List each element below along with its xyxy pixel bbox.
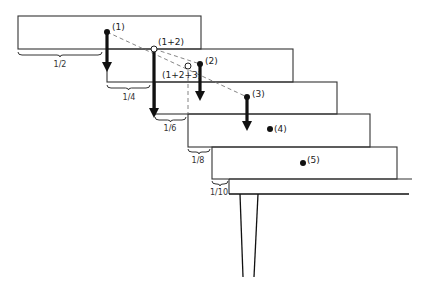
brace — [212, 181, 228, 186]
filled-dot-icon — [267, 126, 273, 132]
filled-dot-icon — [300, 160, 306, 166]
open-circle-icon — [185, 63, 191, 69]
filled-dot-icon — [244, 94, 250, 100]
filled-dot-icon — [197, 61, 203, 67]
overhang-fraction-label: 1/6 — [164, 124, 177, 133]
point-label: (3) — [252, 89, 265, 99]
down-arrow-icon — [102, 62, 112, 72]
down-arrow-icon — [195, 91, 205, 101]
point-label: (1) — [112, 22, 125, 32]
brace — [107, 85, 150, 90]
point-label: (5) — [307, 155, 320, 165]
harmonic-overhang-diagram: (1)(1+2)(1+2+3)(2)(3)(4)(5) 1/21/41/61/8… — [0, 0, 428, 289]
point-label: (4) — [274, 124, 287, 134]
point-label: (1+2) — [158, 37, 184, 47]
filled-dot-icon — [104, 29, 110, 35]
overhang-fraction-label: 1/8 — [192, 156, 205, 165]
table-leg — [240, 194, 243, 277]
dashed-guide-line — [154, 49, 200, 64]
mass-points: (1)(1+2)(1+2+3)(2)(3)(4)(5) — [104, 22, 320, 166]
open-circle-icon — [151, 46, 157, 52]
brace — [18, 52, 102, 57]
overhang-fraction-label: 1/2 — [54, 60, 67, 69]
point-label: (2) — [205, 56, 218, 66]
table-leg — [254, 194, 258, 277]
down-arrow-icon — [242, 121, 252, 131]
brace — [155, 117, 186, 122]
blocks — [18, 16, 397, 179]
table — [229, 179, 412, 277]
point-label: (1+2+3) — [162, 70, 201, 80]
down-arrow-icon — [149, 108, 159, 118]
overhang-fraction-label: 1/4 — [123, 93, 136, 102]
overhang-fraction-label: 1/10 — [210, 188, 228, 197]
brace — [188, 149, 210, 154]
